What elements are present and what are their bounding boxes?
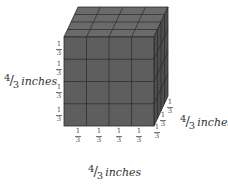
numerator: 1 xyxy=(160,112,166,119)
width-denominator: 3 xyxy=(97,170,103,181)
numerator: 1 xyxy=(56,41,62,48)
width-numerator: 4 xyxy=(88,163,94,174)
denominator: 3 xyxy=(56,93,62,100)
width-dimension-label: 4/3inches xyxy=(88,164,141,179)
denominator: 3 xyxy=(167,108,173,115)
denominator: 3 xyxy=(116,137,122,144)
denominator: 3 xyxy=(56,70,62,77)
denominator: 3 xyxy=(75,137,81,144)
width-unit: inches xyxy=(105,166,141,179)
depth-denominator: 3 xyxy=(189,120,195,131)
numerator: 1 xyxy=(96,128,102,135)
numerator: 1 xyxy=(56,84,62,91)
numerator: 1 xyxy=(56,61,62,68)
height-numerator: 4 xyxy=(4,72,10,83)
height-segment-label: 13 xyxy=(56,61,62,77)
depth-unit: inches xyxy=(197,116,228,129)
height-denominator: 3 xyxy=(13,79,19,90)
denominator: 3 xyxy=(136,137,142,144)
denominator: 3 xyxy=(160,121,166,128)
height-segment-label: 13 xyxy=(56,41,62,57)
height-dimension-label: 4/3inches xyxy=(4,73,57,88)
cube-graphic xyxy=(0,0,228,186)
denominator: 3 xyxy=(154,133,160,140)
numerator: 1 xyxy=(116,128,122,135)
width-segment-label: 13 xyxy=(136,128,142,144)
height-segment-label: 13 xyxy=(56,84,62,100)
numerator: 1 xyxy=(75,128,81,135)
height-unit: inches xyxy=(21,75,57,88)
depth-segment-label: 13 xyxy=(167,99,173,115)
depth-numerator: 4 xyxy=(180,113,186,124)
denominator: 3 xyxy=(56,116,62,123)
depth-segment-label: 13 xyxy=(160,112,166,128)
numerator: 1 xyxy=(56,107,62,114)
denominator: 3 xyxy=(96,137,102,144)
width-segment-label: 13 xyxy=(116,128,122,144)
numerator: 1 xyxy=(167,99,173,106)
denominator: 3 xyxy=(56,50,62,57)
height-segment-label: 13 xyxy=(56,107,62,123)
width-segment-label: 13 xyxy=(96,128,102,144)
depth-dimension-label: 4/3inches xyxy=(180,114,228,129)
width-segment-label: 13 xyxy=(75,128,81,144)
cube-diagram: 4/3inches 4/3inches 4/3inches 13 13 13 1… xyxy=(0,0,228,186)
numerator: 1 xyxy=(136,128,142,135)
